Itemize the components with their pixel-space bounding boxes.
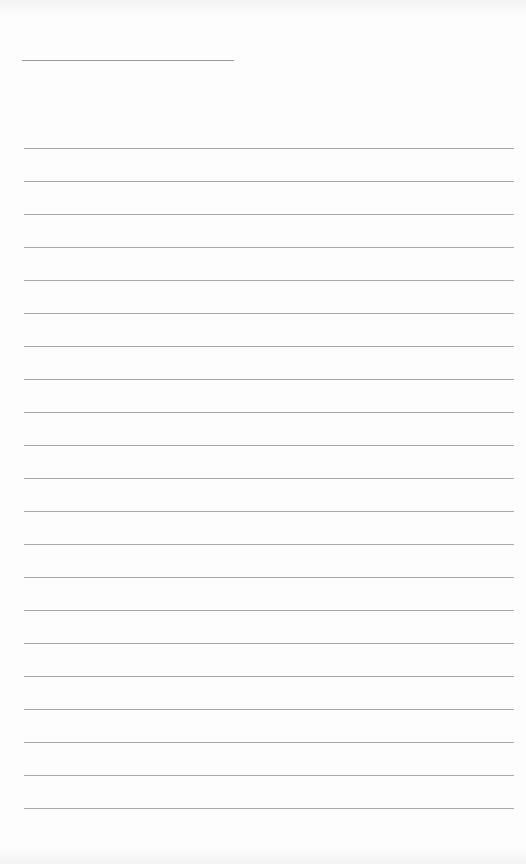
ruled-line <box>24 709 514 710</box>
ruled-line <box>24 346 514 347</box>
ruled-line <box>24 544 514 545</box>
ruled-line <box>24 808 514 809</box>
ruled-line <box>24 181 514 182</box>
ruled-line <box>24 148 514 149</box>
ruled-line <box>24 511 514 512</box>
ruled-line <box>24 775 514 776</box>
ruled-line <box>24 313 514 314</box>
ruled-line <box>24 247 514 248</box>
ruled-line <box>24 643 514 644</box>
ruled-line <box>24 742 514 743</box>
ruled-line <box>24 445 514 446</box>
ruled-line <box>24 379 514 380</box>
ruled-line <box>24 610 514 611</box>
ruled-line <box>24 676 514 677</box>
title-line <box>22 60 234 61</box>
ruled-line <box>24 214 514 215</box>
ruled-line <box>24 412 514 413</box>
ruled-line <box>24 280 514 281</box>
ruled-line <box>24 577 514 578</box>
lined-paper-page <box>0 0 526 864</box>
ruled-line <box>24 478 514 479</box>
